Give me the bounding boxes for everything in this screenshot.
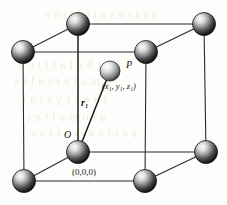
edge-back-right bbox=[204, 24, 206, 152]
edge-front-left bbox=[23, 52, 24, 181]
atom-corner-front-top-left bbox=[12, 41, 35, 64]
label-origin: O bbox=[64, 130, 71, 140]
atom-interior-point-p bbox=[100, 61, 120, 81]
label-vector-r1: r₁ bbox=[81, 98, 88, 108]
atom-corner-front-top-right bbox=[135, 41, 158, 64]
atom-corner-front-bottom-right bbox=[134, 170, 157, 193]
edge-front-right bbox=[145, 52, 146, 181]
cube-edge-layer bbox=[23, 24, 206, 181]
atom-corner-front-bottom-left bbox=[13, 170, 36, 193]
atom-corner-back-bottom-right bbox=[195, 141, 218, 164]
atom-corner-back-top-right bbox=[193, 13, 216, 36]
atom-corner-back-top-left bbox=[67, 13, 90, 36]
atom-sphere-layer bbox=[12, 13, 218, 193]
label-point-p: P bbox=[126, 60, 132, 70]
label-origin-coords: (0,0,0) bbox=[72, 168, 96, 177]
label-point-p-coords: (x₁, y₁, z₁) bbox=[102, 82, 136, 91]
unit-cell-figure: a s a r e s u l t o f t h e o n t h e l … bbox=[0, 0, 227, 205]
unit-cell-canvas bbox=[0, 0, 227, 205]
atom-corner-origin bbox=[67, 141, 90, 164]
